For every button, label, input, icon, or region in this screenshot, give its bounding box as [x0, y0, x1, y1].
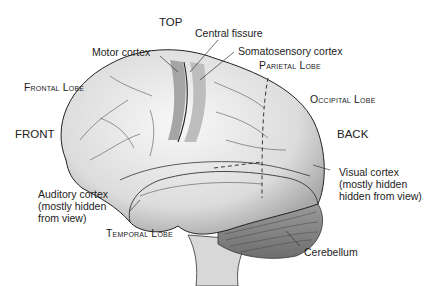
label-visual-cortex: Visual cortex (mostly hidden hidden from…	[339, 166, 422, 202]
label-cerebellum: Cerebellum	[304, 246, 358, 258]
label-somatosensory-cortex: Somatosensory cortex	[238, 45, 342, 57]
label-motor-cortex: Motor cortex	[92, 46, 150, 58]
label-front: FRONT	[15, 128, 55, 140]
brain-illustration	[0, 0, 429, 286]
label-auditory-cortex: Auditory cortex (mostly hidden from view…	[38, 188, 108, 224]
label-parietal-lobe: Parietal Lobe	[259, 59, 321, 71]
label-temporal-lobe: Temporal Lobe	[106, 227, 173, 239]
label-back: BACK	[337, 128, 368, 140]
label-occipital-lobe: Occipital Lobe	[310, 93, 376, 105]
label-top: TOP	[159, 16, 182, 28]
label-central-fissure: Central fissure	[195, 27, 263, 39]
brain-diagram: TOP Central fissure Motor cortex Somatos…	[0, 0, 429, 286]
label-frontal-lobe: Frontal Lobe	[24, 81, 84, 93]
